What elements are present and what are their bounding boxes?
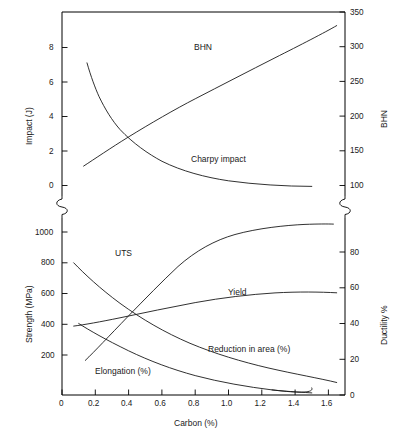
x-tick-0-8: 0.8: [188, 400, 199, 408]
upper-right-tick-350: 350: [350, 9, 364, 17]
lower-left-tick-1000: 1000: [35, 229, 53, 237]
curve-yield: [74, 292, 337, 326]
lower-right-axis-title: Ductility %: [380, 305, 389, 345]
lower-right-tick-40: 40: [350, 320, 359, 328]
x-tick-1-0: 1.0: [221, 400, 232, 408]
lower-left-tick-800: 800: [41, 259, 55, 267]
upper-right-axis-title: BHN: [380, 110, 389, 128]
upper-left-tick-6: 6: [49, 79, 54, 87]
x-tick-0-2: 0.2: [88, 400, 99, 408]
chart-figure: 0 2 4 6 8 100 150 200 250 300 350 1000 8…: [0, 0, 403, 438]
upper-left-axis-title: Impact (J): [25, 107, 34, 145]
upper-right-tick-200: 200: [350, 113, 364, 121]
upper-left-tick-8: 8: [49, 44, 54, 52]
annotation-charpy-impact: Charpy impact: [191, 155, 246, 164]
upper-left-tick-0: 0: [49, 182, 54, 190]
lower-left-axis-title: Strength (MPa): [25, 285, 34, 343]
upper-right-tick-300: 300: [350, 43, 364, 51]
annotation-yield: Yield: [228, 288, 247, 297]
upper-left-tick-2: 2: [49, 148, 54, 156]
x-tick-0-6: 0.6: [155, 400, 166, 408]
upper-left-ticks: [62, 48, 68, 186]
annotation-reduction-in-area: Reduction in area (%): [208, 345, 290, 354]
x-tick-1-2: 1.2: [255, 400, 266, 408]
curve-reduction-in-area: [74, 263, 337, 383]
x-tick-1-4: 1.4: [288, 400, 299, 408]
lower-right-ticks: [340, 252, 346, 395]
x-tick-1-6: 1.6: [321, 400, 332, 408]
curve-elongation: [79, 324, 312, 393]
upper-panel-frame: [62, 12, 345, 196]
curve-charpy-impact: [87, 63, 312, 186]
lower-left-tick-200: 200: [41, 352, 55, 360]
x-axis-ticks: [62, 390, 328, 396]
lower-left-tick-400: 400: [41, 321, 55, 329]
upper-right-tick-150: 150: [350, 147, 364, 155]
lower-right-tick-0: 0: [350, 392, 355, 400]
x-axis-title: Carbon (%): [174, 419, 217, 428]
upper-right-ticks: [340, 12, 346, 186]
lower-left-tick-600: 600: [41, 290, 55, 298]
upper-right-tick-100: 100: [350, 182, 364, 190]
lower-right-tick-80: 80: [350, 249, 359, 257]
chart-svg: [0, 0, 403, 438]
upper-left-tick-4: 4: [49, 113, 54, 121]
x-tick-0: 0: [59, 400, 64, 408]
axis-break-left-icon: [57, 196, 68, 218]
lower-left-ticks: [62, 232, 68, 355]
x-tick-0-4: 0.4: [121, 400, 132, 408]
lower-right-tick-20: 20: [350, 356, 359, 364]
lower-right-tick-60: 60: [350, 284, 359, 292]
axis-break-right-icon: [340, 196, 351, 218]
annotation-bhn: BHN: [194, 43, 212, 52]
upper-right-tick-250: 250: [350, 78, 364, 86]
annotation-uts: UTS: [115, 249, 132, 258]
annotation-elongation: Elongation (%): [95, 367, 151, 376]
